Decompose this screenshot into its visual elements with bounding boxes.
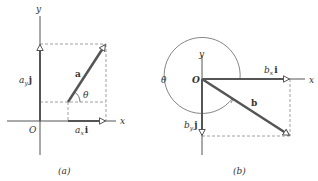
panel-a-angle-label: θ [83, 90, 89, 100]
panel-b-y-axis-label: y [198, 49, 205, 59]
panel-b-x-component-label: bxi [264, 65, 278, 76]
panel-b-x-axis-label: x [309, 75, 314, 85]
panel-a-x-axis-label: x [120, 116, 125, 126]
panel-a-vector-label: a [75, 69, 81, 79]
panel-a-x-component-label: axi [75, 125, 89, 136]
panel-a-dashed-guides [40, 44, 106, 121]
vector-components-figure: y x O a θ ayj axi (a) y x O θ [0, 0, 318, 181]
panel-b-vector-b [202, 79, 289, 135]
panel-a-caption: (a) [58, 166, 71, 176]
panel-a-angle-arc [75, 92, 81, 102]
panel-b-origin-label: O [192, 75, 200, 85]
panel-b: y x O θ b bxi byj (b) [161, 37, 314, 176]
panel-b-angle-label: θ [161, 75, 167, 85]
panel-b-vector-label: b [251, 98, 257, 108]
panel-b-caption: (b) [233, 166, 246, 176]
panel-b-y-component-label: byj [184, 120, 197, 132]
panel-a: y x O a θ ayj axi (a) [7, 4, 125, 176]
panel-a-y-component-label: ayj [19, 75, 32, 87]
panel-a-origin-label: O [29, 125, 37, 135]
panel-a-y-axis-label: y [35, 4, 42, 14]
